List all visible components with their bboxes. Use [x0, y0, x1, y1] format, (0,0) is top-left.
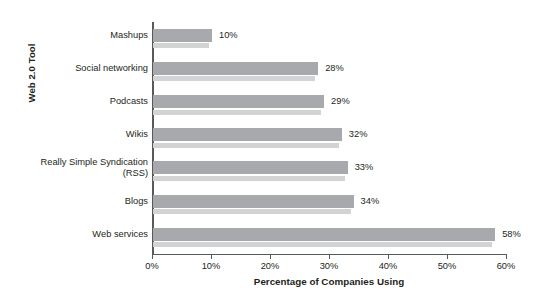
x-axis-tick-label: 40% [379, 261, 398, 271]
x-axis-tick-label: 10% [202, 261, 221, 271]
x-axis-tick-label: 50% [438, 261, 457, 271]
bar [153, 95, 324, 108]
category-label: Mashups [30, 30, 148, 41]
category-label: Wikis [30, 129, 148, 140]
bar-value-label: 10% [219, 29, 238, 42]
x-axis-tick-label: 30% [320, 261, 339, 271]
bar [153, 195, 354, 208]
bar-group: 34% [153, 195, 414, 215]
category-label: Social networking [30, 63, 148, 74]
bar [153, 228, 495, 241]
bar-shadow [153, 76, 315, 81]
bar [153, 62, 318, 75]
bar [153, 128, 342, 141]
bar-shadow [153, 110, 321, 115]
category-label: Blogs [30, 196, 148, 207]
bar-value-label: 29% [331, 95, 350, 108]
x-axis-title: Percentage of Companies Using [152, 276, 506, 287]
bar-group: 10% [153, 29, 272, 49]
bar-value-label: 28% [325, 62, 344, 75]
bar-shadow [153, 209, 351, 214]
bar-value-label: 58% [502, 228, 521, 241]
x-axis-tick [211, 254, 212, 259]
bar-value-label: 34% [361, 195, 380, 208]
bar-value-label: 32% [349, 128, 368, 141]
x-axis-tick [270, 254, 271, 259]
category-label: Web services [30, 229, 148, 240]
bar-shadow [153, 176, 345, 181]
category-label: Really Simple Syndication (RSS) [30, 157, 148, 179]
bar [153, 29, 212, 42]
bar-shadow [153, 43, 209, 48]
bar-group: 33% [153, 161, 408, 181]
bar-chart: Web 2.0 Tool MashupsSocial networkingPod… [0, 0, 537, 302]
bar-group: 29% [153, 95, 384, 115]
x-axis-tick [506, 254, 507, 259]
category-label: Podcasts [30, 96, 148, 107]
bar [153, 161, 348, 174]
category-label-list: MashupsSocial networkingPodcastsWikisRea… [30, 22, 148, 254]
x-axis-tick-label: 20% [261, 261, 280, 271]
x-axis-tick [329, 254, 330, 259]
bar-value-label: 33% [355, 161, 374, 174]
bar-shadow [153, 143, 339, 148]
x-axis-tick-label: 60% [497, 261, 516, 271]
bar-shadow [153, 242, 492, 247]
x-axis-tick [152, 254, 153, 259]
plot-area: 0%10%20%30%40%50%60% 10%28%29%32%33%34%5… [152, 22, 506, 254]
bar-group: 32% [153, 128, 402, 148]
x-axis-tick [388, 254, 389, 259]
x-axis-tick-label: 0% [145, 261, 158, 271]
bar-group: 28% [153, 62, 378, 82]
x-axis-tick [447, 254, 448, 259]
bar-group: 58% [153, 228, 537, 248]
